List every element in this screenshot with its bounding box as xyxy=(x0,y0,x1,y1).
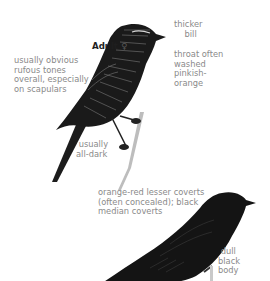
female-symbol-icon: ♀ xyxy=(121,41,127,51)
bill-annotation: thicker bill xyxy=(174,20,202,39)
age-label: Adult xyxy=(92,41,118,51)
throat-annotation: throat often washed pinkish- orange xyxy=(174,50,223,88)
dark-bird-illustration xyxy=(0,0,270,281)
coverts-annotation: orange-red lesser coverts (often conceal… xyxy=(98,188,204,217)
legs-annotation: usually all-dark xyxy=(76,140,108,159)
adult-female-title: Adult♀ xyxy=(86,31,127,51)
scapulars-annotation: usually obvious rufous tones overall, es… xyxy=(14,56,89,94)
body-annotation: dull black body xyxy=(218,247,240,276)
